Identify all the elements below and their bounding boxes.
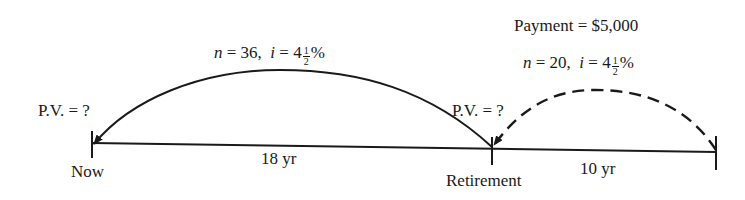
n-symbol: n [523, 53, 532, 72]
fraction-denominator: 2 [303, 57, 310, 67]
n-value: 20 [550, 53, 567, 72]
percent-sign: % [620, 53, 634, 72]
point-label-retirement: Retirement [446, 172, 522, 189]
arc1-rate-label: n = 36, i = 412% [214, 44, 325, 65]
arc-dashed-arrow [494, 90, 716, 150]
i-whole: 4 [293, 43, 302, 62]
i-fraction: 12 [612, 56, 619, 77]
percent-sign: % [311, 43, 325, 62]
payment-label: Payment = $5,000 [514, 17, 638, 34]
fraction-denominator: 2 [612, 67, 619, 77]
segment-label-10yr: 10 yr [580, 160, 615, 177]
i-symbol: i [579, 53, 584, 72]
arc-solid-arrow [94, 70, 492, 147]
i-whole: 4 [602, 53, 611, 72]
i-symbol: i [270, 43, 275, 62]
i-fraction: 12 [303, 46, 310, 67]
n-value: 36 [241, 43, 258, 62]
segment-label-18yr: 18 yr [261, 150, 296, 167]
n-symbol: n [214, 43, 223, 62]
arc2-rate-label: n = 20, i = 412% [523, 54, 634, 75]
point-label-now: Now [71, 163, 104, 180]
pv-retirement-label: P.V. = ? [452, 102, 504, 119]
pv-now-label: P.V. = ? [38, 102, 90, 119]
timeline-axis [92, 143, 716, 152]
